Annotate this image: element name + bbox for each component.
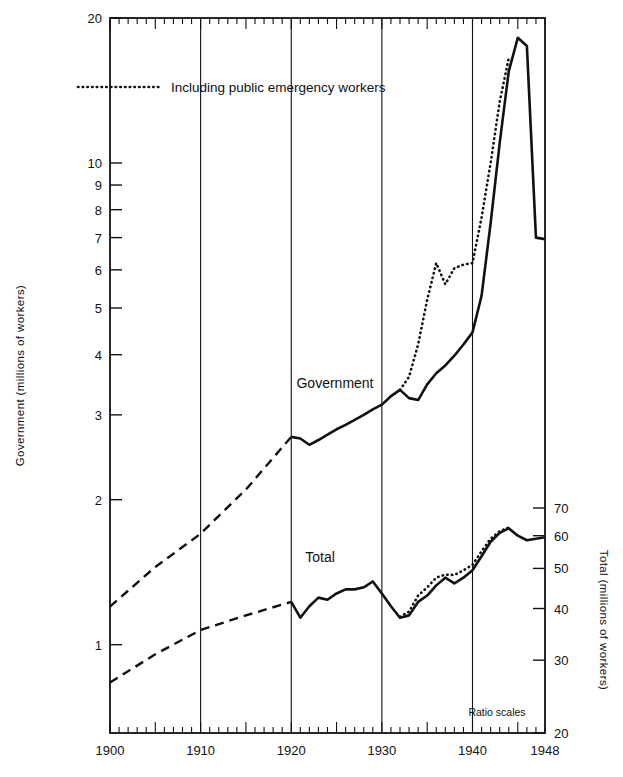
x-tick-label-1930: 1930 — [367, 743, 396, 758]
left-tick-label-20: 20 — [88, 11, 102, 26]
chart-canvas: 2010987654321706050403020190019101920193… — [0, 0, 623, 777]
right-tick-label-60: 60 — [554, 529, 568, 544]
x-tick-label-1900: 1900 — [96, 743, 125, 758]
left-tick-label-4: 4 — [95, 348, 102, 363]
left-tick-label-10: 10 — [88, 156, 102, 171]
right-tick-label-20: 20 — [554, 726, 568, 741]
left-tick-label-9: 9 — [95, 178, 102, 193]
left-tick-label-7: 7 — [95, 231, 102, 246]
right-axis-title: Total (millions of workers) — [598, 550, 610, 691]
left-tick-label-5: 5 — [95, 301, 102, 316]
x-tick-label-1910: 1910 — [186, 743, 215, 758]
left-tick-label-8: 8 — [95, 203, 102, 218]
right-tick-label-40: 40 — [554, 602, 568, 617]
x-tick-label-1948: 1948 — [531, 743, 560, 758]
left-tick-label-2: 2 — [95, 493, 102, 508]
left-tick-label-6: 6 — [95, 263, 102, 278]
left-tick-label-3: 3 — [95, 408, 102, 423]
chart-figure: 2010987654321706050403020190019101920193… — [0, 0, 623, 777]
right-tick-label-30: 30 — [554, 653, 568, 668]
series-label-total: Total — [305, 549, 335, 565]
legend-label: Including public emergency workers — [171, 80, 386, 95]
right-tick-label-70: 70 — [554, 501, 568, 516]
series-label-government: Government — [296, 375, 373, 391]
left-axis-title: Government (millions of workers) — [14, 285, 26, 467]
left-tick-label-1: 1 — [95, 638, 102, 653]
right-tick-label-50: 50 — [554, 561, 568, 576]
ratio-scales-note: Ratio scales — [468, 706, 525, 718]
x-tick-label-1940: 1940 — [458, 743, 487, 758]
x-tick-label-1920: 1920 — [277, 743, 306, 758]
